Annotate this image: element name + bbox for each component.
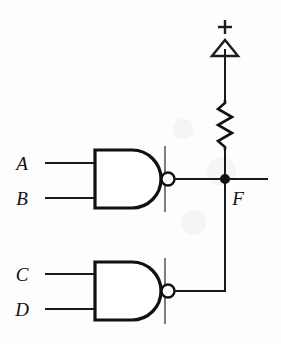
gate-upper-body	[95, 150, 161, 208]
gate-lower-output-wire	[174, 179, 225, 291]
label-input-b: B	[16, 188, 28, 209]
label-input-d: D	[14, 299, 29, 320]
gate-lower-inversion-bubble-icon	[162, 285, 175, 298]
resistor-zigzag-icon	[218, 100, 232, 150]
gate-upper-nand	[45, 146, 225, 212]
gate-upper-inversion-bubble-icon	[162, 173, 175, 186]
label-input-c: C	[16, 264, 29, 285]
logic-circuit-diagram: A B C D F	[0, 0, 281, 344]
junction-dot	[220, 174, 230, 184]
supply-symbol	[212, 20, 238, 100]
label-output-f: F	[231, 188, 244, 209]
gate-lower-body	[95, 262, 161, 320]
output-node-junction	[220, 174, 268, 184]
pullup-resistor	[218, 100, 232, 183]
label-input-a: A	[14, 153, 28, 174]
plus-icon	[218, 20, 232, 34]
